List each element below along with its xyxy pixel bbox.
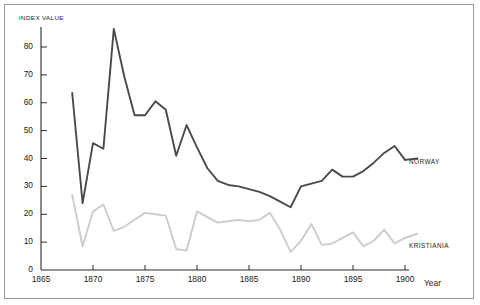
y-tick-label: 20: [11, 208, 33, 218]
x-tick-label: 1885: [229, 274, 269, 284]
series-line-kristiania: [72, 195, 405, 252]
y-tick-label: 50: [11, 125, 33, 135]
x-tick-label: 1880: [177, 274, 217, 284]
y-tick-label: 70: [11, 69, 33, 79]
series-line-norway: [72, 29, 405, 207]
x-tick-label: 1900: [385, 274, 425, 284]
y-tick-label: 60: [11, 97, 33, 107]
y-tick-label: 80: [11, 41, 33, 51]
series-leader-kristiania: [405, 234, 417, 238]
line-chart-plot: [0, 0, 480, 305]
x-tick-label: 1870: [73, 274, 113, 284]
chart-series: [72, 29, 417, 252]
x-tick-label: 1895: [333, 274, 373, 284]
x-tick-label: 1890: [281, 274, 321, 284]
y-tick-label: 10: [11, 236, 33, 246]
x-tick-label: 1875: [125, 274, 165, 284]
series-leader-norway: [405, 159, 417, 160]
y-tick-label: 40: [11, 153, 33, 163]
y-tick-label: 30: [11, 180, 33, 190]
y-tick-label: 0: [11, 264, 33, 274]
x-tick-label: 1865: [21, 274, 61, 284]
